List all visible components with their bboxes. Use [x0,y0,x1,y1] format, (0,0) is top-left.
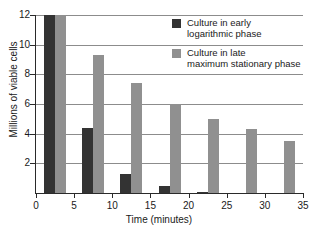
x-axis-line [35,193,303,194]
bar [55,15,66,193]
x-tick-label: 30 [253,200,277,211]
x-tick-mark [36,193,37,198]
bar [120,174,131,193]
x-tick-label: 25 [215,200,239,211]
x-tick-mark [150,193,151,198]
y-axis-label: Millions of viable cells [8,15,19,165]
bar [82,128,93,193]
x-tick-mark [189,193,190,198]
bar [44,15,55,193]
legend-item-late: Culture in late maximum stationary phase [172,48,312,69]
legend-swatch-late-icon [172,49,181,58]
x-tick-label: 15 [138,200,162,211]
x-tick-mark [74,193,75,198]
legend-item-early: Culture in early logarithmic phase [172,18,312,39]
x-tick-label: 35 [291,200,315,211]
y-tick-mark [30,134,35,135]
bar [284,141,295,193]
bar [131,83,142,193]
x-tick-mark [227,193,228,198]
y-tick-mark [30,163,35,164]
x-tick-mark [112,193,113,198]
bar-chart-figure: 24681012 Millions of viable cells 051015… [0,0,318,232]
bar [93,55,104,193]
bar [170,104,181,193]
bar [246,129,257,193]
y-tick-mark [30,45,35,46]
x-tick-label: 5 [62,200,86,211]
y-tick-mark [30,15,35,16]
figure-caption [6,223,306,230]
chart-legend: Culture in early logarithmic phase Cultu… [172,18,312,78]
bar [159,186,170,193]
bar [208,119,219,193]
y-axis-line [35,15,36,194]
x-tick-label: 10 [100,200,124,211]
y-tick-mark [30,104,35,105]
x-tick-label: 0 [24,200,48,211]
legend-label-early: Culture in early logarithmic phase [187,18,261,39]
legend-label-late: Culture in late maximum stationary phase [187,48,301,69]
x-tick-label: 20 [177,200,201,211]
x-tick-mark [303,193,304,198]
x-tick-mark [265,193,266,198]
legend-swatch-early-icon [172,19,181,28]
y-tick-mark [30,74,35,75]
